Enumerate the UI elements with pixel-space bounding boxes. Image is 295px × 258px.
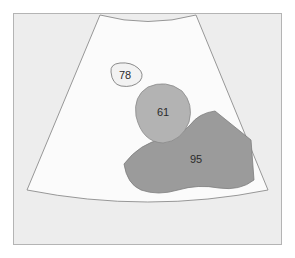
region-61-shape[interactable] <box>136 84 191 143</box>
scan-canvas: 78 61 95 <box>0 0 295 258</box>
ultrasound-figure: 78 61 95 <box>0 0 295 258</box>
